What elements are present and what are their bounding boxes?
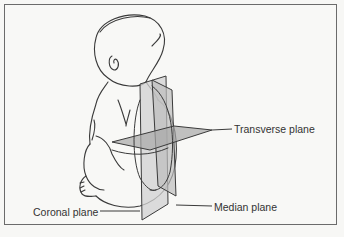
median-leader <box>176 205 212 206</box>
coronal-plane-label: Coronal plane <box>33 206 98 218</box>
transverse-plane-label: Transverse plane <box>234 123 315 135</box>
median-plane-label: Median plane <box>214 201 277 213</box>
fetus-planes-illustration <box>0 0 344 237</box>
transverse-plane <box>112 126 212 150</box>
head-outline <box>95 15 165 86</box>
transverse-leader <box>212 129 232 130</box>
